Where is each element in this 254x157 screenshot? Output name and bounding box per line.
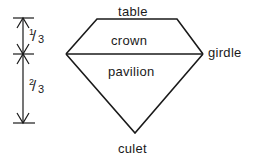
fraction-slash: / — [32, 28, 36, 43]
fraction-one-third: 1 / 3 — [29, 28, 51, 48]
label-table: table — [118, 5, 148, 18]
fraction-two-thirds: 2 / 3 — [29, 78, 51, 98]
label-culet: culet — [118, 142, 147, 155]
label-girdle: girdle — [208, 46, 242, 59]
label-pavilion: pavilion — [108, 65, 154, 78]
fraction-denominator: 3 — [38, 34, 44, 45]
label-crown: crown — [111, 34, 147, 47]
fraction-slash: / — [32, 78, 36, 93]
fraction-denominator: 3 — [38, 84, 44, 95]
